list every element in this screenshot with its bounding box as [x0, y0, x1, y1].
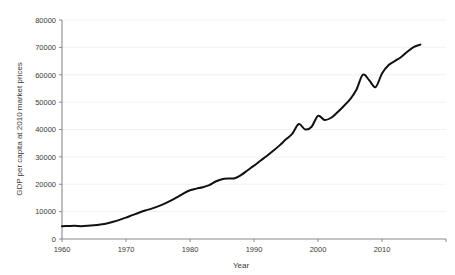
- gdp-per-capita-line: [62, 45, 420, 226]
- y-axis: 0100002000030000400005000060000700008000…: [35, 16, 62, 244]
- y-tick-label: 20000: [35, 180, 56, 189]
- x-axis-title: Year: [233, 261, 250, 270]
- x-axis: 196019701980199020002010: [54, 239, 446, 254]
- y-tick-label: 80000: [35, 16, 56, 25]
- y-tick-label: 10000: [35, 207, 56, 216]
- gridlines: [62, 20, 446, 212]
- y-tick-label: 0: [52, 235, 56, 244]
- line-chart: 0100002000030000400005000060000700008000…: [0, 0, 455, 275]
- y-axis-title: GDP per capita at 2010 market prices: [15, 62, 24, 196]
- y-tick-label: 40000: [35, 125, 56, 134]
- y-tick-label: 30000: [35, 153, 56, 162]
- x-tick-label: 2000: [310, 245, 327, 254]
- x-tick-label: 1990: [246, 245, 263, 254]
- y-tick-label: 70000: [35, 43, 56, 52]
- y-tick-label: 60000: [35, 71, 56, 80]
- x-tick-label: 2010: [374, 245, 391, 254]
- chart-container: 0100002000030000400005000060000700008000…: [0, 0, 455, 275]
- y-tick-label: 50000: [35, 98, 56, 107]
- x-tick-label: 1960: [54, 245, 71, 254]
- x-tick-label: 1980: [182, 245, 199, 254]
- data-series-group: [62, 45, 420, 226]
- x-tick-label: 1970: [118, 245, 135, 254]
